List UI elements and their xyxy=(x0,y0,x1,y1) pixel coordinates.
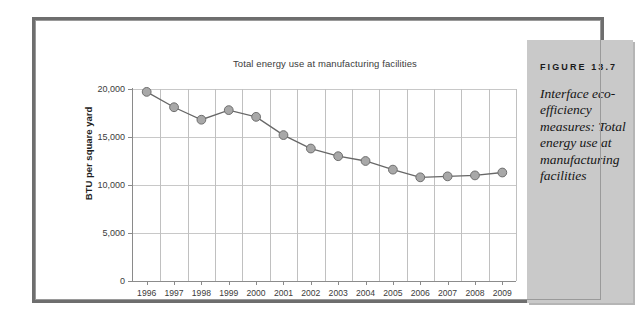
x-axis-tick xyxy=(174,281,175,285)
x-axis-tick-label: 2003 xyxy=(329,288,348,298)
gridline-horizontal xyxy=(133,281,516,282)
x-axis-tick-label: 2008 xyxy=(465,288,484,298)
x-axis-tick xyxy=(448,281,449,285)
x-axis-tick xyxy=(229,281,230,285)
data-series xyxy=(133,89,516,281)
x-axis-tick xyxy=(283,281,284,285)
data-point-marker xyxy=(306,144,315,153)
x-axis-tick-label: 2007 xyxy=(438,288,457,298)
figure-number-label: FIGURE 13.7 xyxy=(540,62,617,72)
gridline-vertical xyxy=(516,89,517,281)
x-axis-tick xyxy=(311,281,312,285)
data-point-marker xyxy=(334,152,343,161)
plot-area: 20,00015,00010,0005,0000 199619971998199… xyxy=(133,89,516,281)
figure-border: Total energy use at manufacturing facili… xyxy=(32,17,604,303)
data-point-marker xyxy=(224,106,233,115)
x-axis-tick-label: 2005 xyxy=(383,288,402,298)
data-point-marker xyxy=(252,112,261,121)
chart-title: Total energy use at manufacturing facili… xyxy=(130,58,520,69)
x-axis-tick-label: 1998 xyxy=(192,288,211,298)
x-axis-tick xyxy=(338,281,339,285)
data-point-marker xyxy=(142,87,151,96)
x-axis-tick xyxy=(475,281,476,285)
data-point-marker xyxy=(279,131,288,140)
y-axis-tick xyxy=(128,281,133,282)
data-point-marker xyxy=(416,173,425,182)
x-axis-tick-label: 2002 xyxy=(301,288,320,298)
x-axis-tick-label: 2009 xyxy=(493,288,512,298)
x-axis-tick-label: 1997 xyxy=(164,288,183,298)
x-axis-tick xyxy=(502,281,503,285)
y-axis-tick-label: 15,000 xyxy=(97,132,125,142)
y-axis-tick-label: 10,000 xyxy=(97,180,125,190)
x-axis-tick-label: 2004 xyxy=(356,288,375,298)
y-axis-tick-label: 20,000 xyxy=(97,84,125,94)
x-axis-tick-label: 2000 xyxy=(247,288,266,298)
x-axis-tick xyxy=(256,281,257,285)
x-axis-tick xyxy=(393,281,394,285)
x-axis-tick xyxy=(420,281,421,285)
y-axis-tick-label: 5,000 xyxy=(102,228,125,238)
y-axis-tick-label: 0 xyxy=(120,276,125,286)
data-point-marker xyxy=(498,168,507,177)
x-axis-tick-label: 2006 xyxy=(411,288,430,298)
data-point-marker xyxy=(170,103,179,112)
data-point-marker xyxy=(388,165,397,174)
data-point-marker xyxy=(197,115,206,124)
x-axis-tick xyxy=(366,281,367,285)
y-axis-label: BTU per square yard xyxy=(83,84,94,224)
x-axis-tick-label: 2001 xyxy=(274,288,293,298)
series-line xyxy=(147,92,503,177)
data-point-marker xyxy=(471,171,480,180)
x-axis-tick xyxy=(147,281,148,285)
x-axis-tick-label: 1999 xyxy=(219,288,238,298)
figure-caption-panel: FIGURE 13.7 Interface eco-efficiency mea… xyxy=(527,40,633,303)
figure-caption-text: Interface eco-efficiency measures: Total… xyxy=(540,86,628,184)
data-point-marker xyxy=(361,157,370,166)
x-axis-tick xyxy=(201,281,202,285)
chart-container: Total energy use at manufacturing facili… xyxy=(70,40,525,320)
data-point-marker xyxy=(443,172,452,181)
x-axis-tick-label: 1996 xyxy=(137,288,156,298)
figure-root: Total energy use at manufacturing facili… xyxy=(0,0,636,321)
